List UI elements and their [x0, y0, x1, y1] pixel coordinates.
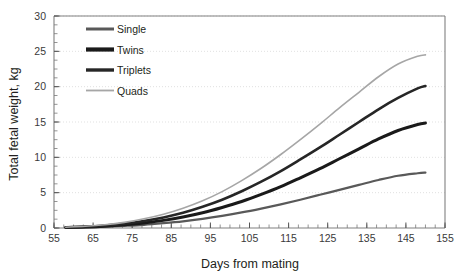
chart-figure: 5565758595105115125135145155 05101520253…: [0, 0, 470, 274]
x-tick-label-75: 75: [126, 232, 138, 244]
x-tick-label-125: 125: [319, 232, 337, 244]
x-tick-label-135: 135: [358, 232, 376, 244]
x-tick-label-155: 155: [436, 232, 454, 244]
y-tick-label-25: 25: [34, 45, 46, 57]
fetal-weight-line-chart: 5565758595105115125135145155 05101520253…: [0, 0, 470, 274]
x-tick-label-65: 65: [87, 232, 99, 244]
x-tick-label-105: 105: [241, 232, 259, 244]
y-tick-label-5: 5: [40, 186, 46, 198]
y-tick-label-10: 10: [34, 151, 46, 163]
y-tick-label-0: 0: [40, 222, 46, 234]
x-tick-label-95: 95: [205, 232, 217, 244]
legend-label-quads: Quads: [117, 85, 148, 97]
y-tick-label-30: 30: [34, 10, 46, 22]
legend-label-triplets: Triplets: [117, 64, 151, 76]
x-tick-label-115: 115: [280, 232, 297, 244]
x-axis-title: Days from mating: [201, 257, 299, 271]
x-tick-label-145: 145: [397, 232, 415, 244]
y-tick-label-20: 20: [34, 80, 46, 92]
y-tick-label-15: 15: [34, 116, 46, 128]
x-tick-label-85: 85: [165, 232, 177, 244]
x-tick-label-55: 55: [48, 232, 60, 244]
legend-label-twins: Twins: [117, 44, 144, 56]
y-axis-title: Total fetal weight, kg: [7, 67, 21, 180]
legend-label-single: Single: [117, 23, 146, 35]
